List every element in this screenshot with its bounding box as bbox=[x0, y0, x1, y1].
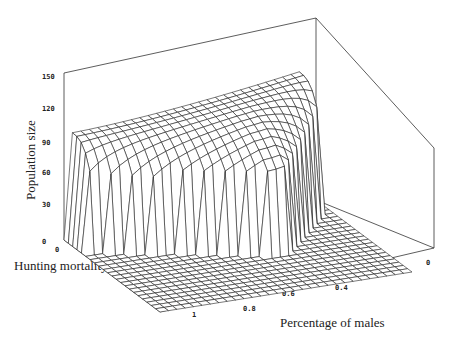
svg-text:60: 60 bbox=[42, 169, 50, 177]
z-axis-ticks: 0 30 60 90 120 150 bbox=[42, 73, 55, 246]
svg-text:0: 0 bbox=[42, 238, 46, 246]
surface-plot: 0 30 60 90 120 150 0 0.1 0.2 0.3 0.4 1 0… bbox=[0, 0, 449, 340]
svg-text:1: 1 bbox=[192, 311, 196, 319]
svg-text:30: 30 bbox=[42, 201, 50, 209]
svg-text:0: 0 bbox=[55, 246, 59, 254]
svg-text:120: 120 bbox=[42, 105, 55, 113]
z-axis-label: Population size bbox=[23, 120, 38, 200]
wireframe-surface bbox=[64, 72, 412, 312]
svg-text:0.4: 0.4 bbox=[335, 284, 348, 292]
svg-text:0: 0 bbox=[426, 259, 430, 267]
x-axis-label: Percentage of males bbox=[280, 315, 385, 330]
svg-text:0.8: 0.8 bbox=[243, 305, 256, 313]
svg-text:90: 90 bbox=[42, 139, 50, 147]
svg-text:150: 150 bbox=[42, 73, 55, 81]
